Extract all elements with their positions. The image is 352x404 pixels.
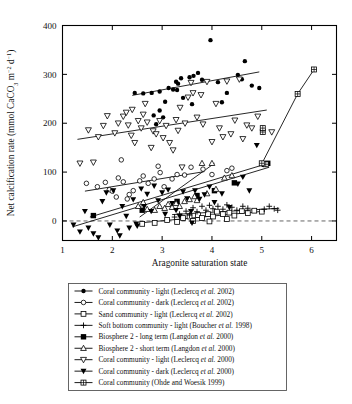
data-point-filled-circle [166,86,170,90]
data-point-filled-triangle-down [114,228,120,233]
data-point-filled-triangle-down [144,192,150,197]
data-point-open-triangle-down [128,133,134,138]
y-tick-label-100: 100 [43,167,57,177]
data-point-filled-circle [187,75,191,79]
legend-item-7[interactable]: Coral community - dark (Leclercq et al. … [75,367,235,376]
series-5-open-triangle-up [135,160,234,212]
legend-label-2: Sand community - light (Leclercq et al. … [99,310,234,319]
data-point-filled-circle [190,102,194,106]
legend-label-6: Coral community - light (Leclercq et al.… [99,355,235,364]
data-point-open-triangle-down [148,145,154,150]
data-point-filled-triangle-down [117,233,123,238]
data-point-open-triangle-down [216,126,222,131]
trend-line-coral-dark-2000 [72,167,269,227]
data-point-filled-circle [208,38,212,42]
data-point-open-circle [182,173,187,178]
data-point-open-circle [170,177,175,182]
data-point-filled-circle [154,122,158,126]
data-point-open-circle [116,176,121,181]
data-point-filled-triangle-down [85,226,91,231]
data-point-open-triangle-down [232,118,238,123]
legend-item-6[interactable]: Coral community - light (Leclercq et al.… [75,355,235,364]
data-point-filled-circle [257,86,261,90]
data-point-plus [207,202,213,208]
legend-label-7: Coral community - dark (Leclercq et al. … [99,367,235,376]
scatter-plot-figure: 1234560100200300400Aragonite saturation … [0,0,352,404]
data-point-filled-triangle-down [82,209,88,214]
data-point-open-triangle-down [153,132,159,137]
data-point-open-triangle-down [132,140,138,145]
data-point-open-square [252,208,257,213]
data-point-filled-circle [243,59,247,63]
data-point-filled-circle [176,81,180,85]
data-point-filled-circle [220,100,224,104]
data-point-open-triangle-down [160,136,166,141]
series-7-filled-triangle-down [70,143,259,241]
data-point-open-circle [158,170,163,175]
legend-item-5[interactable]: Biosphere 2 - short term (Langdon et al.… [75,344,236,353]
data-point-open-triangle-down [224,79,230,84]
legend-marker-crossed-square [81,380,86,385]
data-point-filled-circle [151,113,155,117]
data-point-filled-circle [157,89,161,93]
data-point-open-triangle-down [104,114,110,119]
data-point-filled-triangle-down [123,214,129,219]
data-point-crossed-square [295,91,300,96]
data-point-filled-circle [236,73,240,77]
data-point-open-triangle-down [170,148,176,153]
data-point-open-square [181,216,186,221]
data-point-crossed-square [260,126,265,131]
legend-label-8: Coral community (Ohde and Woesik 1999) [99,378,226,387]
data-point-open-triangle-down [240,137,246,142]
data-point-open-triangle-down [77,161,83,166]
data-point-filled-circle [196,71,200,75]
data-point-open-square [200,216,205,221]
data-point-filled-triangle-down [70,223,76,228]
x-tick-label-2: 2 [110,245,115,255]
legend-label-0: Coral community - light (Leclercq et al.… [99,287,235,296]
legend-label-4: Biosphere 2 - long term (Langdon et al. … [99,332,234,341]
data-point-filled-triangle-down [126,226,132,231]
y-tick-label-0: 0 [52,216,57,226]
data-point-open-triangle-down [185,95,191,100]
data-point-open-triangle-down [175,128,181,133]
data-point-open-triangle-down [140,112,146,117]
x-tick-label-3: 3 [160,245,165,255]
data-point-open-triangle-down [90,160,96,165]
legend-item-4[interactable]: Biosphere 2 - long term (Langdon et al. … [75,332,234,341]
legend-item-3[interactable]: Soft bottom community - light (Boucher e… [75,321,253,330]
data-point-open-triangle-down [255,114,261,119]
data-point-open-square [165,218,170,223]
data-point-open-square [225,217,230,222]
data-point-open-circle [152,177,157,182]
data-point-open-triangle-down [142,101,148,106]
data-point-open-triangle-down [129,107,135,112]
data-point-open-triangle-down [220,135,226,140]
data-point-open-triangle-down [198,93,204,98]
data-point-open-circle [95,184,100,189]
y-tick-label-300: 300 [43,70,57,80]
y-axis-label: Net calcification rate (mmol CaCO3 m−2 d… [5,50,19,217]
data-point-open-square [215,209,220,214]
data-point-open-circle [156,164,161,169]
legend-item-1[interactable]: Coral community - dark (Leclercq et al. … [75,298,235,307]
x-axis-label: Aragonite saturation state [152,258,248,268]
legend-item-2[interactable]: Sand community - light (Leclercq et al. … [75,310,234,319]
data-point-filled-circle [250,83,254,87]
data-point-filled-circle [163,100,167,104]
y-tick-label-200: 200 [43,118,57,128]
data-point-filled-circle [191,74,195,78]
data-point-open-triangle-down [115,121,121,126]
legend: Coral community - light (Leclercq et al.… [75,287,253,388]
data-point-filled-triangle-down [130,197,136,202]
data-point-open-triangle-down [144,120,150,125]
data-point-open-triangle-down [95,135,101,140]
data-point-open-circle [127,192,132,197]
legend-marker-open-square [81,312,86,317]
data-point-filled-circle [181,96,185,100]
legend-item-0[interactable]: Coral community - light (Leclercq et al.… [75,287,235,296]
legend-label-1: Coral community - dark (Leclercq et al. … [99,298,235,307]
data-point-filled-circle [175,88,179,92]
data-point-filled-square [91,213,96,218]
data-point-open-square [207,219,212,224]
